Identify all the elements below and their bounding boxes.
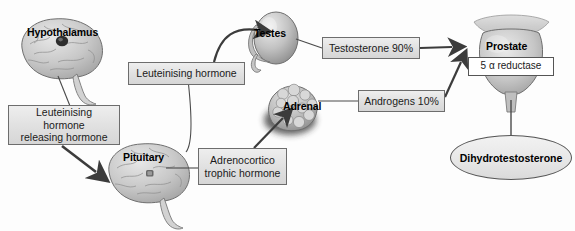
- arrow-testosterone-to-prostate: [420, 47, 452, 48]
- lhrh-text: Leuteinising hormone releasing hormone: [14, 106, 114, 144]
- acth-line-2: trophic hormone: [205, 167, 281, 179]
- caption-pituitary: Pituitary: [123, 151, 164, 163]
- label-box-5-alpha-reductase[interactable]: 5 α reductase: [468, 57, 554, 76]
- line-testes-to-testosterone: [296, 39, 322, 48]
- label-box-testosterone[interactable]: Testosterone 90%: [322, 37, 420, 59]
- caption-adrenal: Adrenal: [283, 100, 321, 112]
- line-hypothalamus-to-lhrh: [58, 76, 70, 106]
- acth-text: Adrenocortico trophic hormone: [205, 154, 281, 179]
- arrow-lh-to-testes: [214, 29, 258, 62]
- caption-prostate: Prostate: [486, 40, 527, 52]
- hormone-axis-diagram: Hypothalamus Pituitary Testes Adrenal Pr…: [0, 0, 575, 231]
- caption-hypothalamus: Hypothalamus: [27, 26, 98, 38]
- label-box-androgens[interactable]: Androgens 10%: [358, 90, 445, 112]
- lhrh-line-2: releasing hormone: [21, 131, 108, 143]
- label-ellipse-dihydrotestosterone[interactable]: Dihydrotestosterone: [450, 135, 572, 180]
- arrow-androgens-to-prostate: [445, 62, 461, 97]
- label-box-lh[interactable]: Leuteinising hormone: [128, 62, 245, 85]
- label-box-acth[interactable]: Adrenocortico trophic hormone: [198, 148, 287, 185]
- arrow-acth-to-adrenal: [254, 118, 283, 148]
- arrow-lhrh-to-pituitary: [62, 146, 96, 172]
- lhrh-line-1: Leuteinising hormone: [36, 106, 92, 131]
- label-box-lhrh[interactable]: Leuteinising hormone releasing hormone: [8, 105, 120, 145]
- caption-testes: Testes: [254, 27, 286, 39]
- acth-line-1: Adrenocortico: [210, 154, 275, 166]
